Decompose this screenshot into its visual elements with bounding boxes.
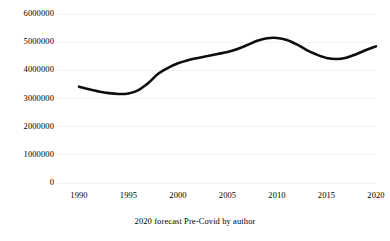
series-line-forecast	[58, 14, 376, 187]
y-tick-label: 5000000	[0, 37, 54, 46]
series-path	[79, 38, 376, 94]
line-chart: 6000000500000040000003000000200000010000…	[0, 0, 390, 241]
x-tick-label: 2000	[158, 190, 198, 200]
y-axis: 6000000500000040000003000000200000010000…	[0, 0, 54, 241]
y-tick-label: 2000000	[0, 122, 54, 131]
y-tick-label: 4000000	[0, 65, 54, 74]
y-tick-label: 0	[0, 178, 54, 187]
x-tick-label: 2020	[356, 190, 390, 200]
y-tick-label: 6000000	[0, 9, 54, 18]
x-tick-label: 2010	[257, 190, 297, 200]
y-tick-label: 1000000	[0, 150, 54, 159]
x-tick-label: 1995	[109, 190, 149, 200]
plot-area	[58, 14, 376, 187]
chart-caption: 2020 forecast Pre-Covid by author	[0, 216, 390, 227]
y-tick-label: 3000000	[0, 94, 54, 103]
x-tick-label: 2015	[307, 190, 347, 200]
x-tick-label: 2005	[208, 190, 248, 200]
x-axis: 1990199520002005201020152020	[0, 190, 390, 204]
x-tick-label: 1990	[59, 190, 99, 200]
